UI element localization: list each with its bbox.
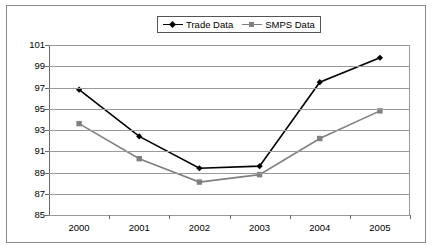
- y-axis-tick-label: 87: [17, 188, 45, 199]
- x-axis-tick-mark: [350, 215, 351, 219]
- gridline: [49, 109, 410, 110]
- data-point-square: [76, 121, 81, 126]
- legend-swatch-smps-data: [242, 20, 262, 29]
- legend-label-trade-data: Trade Data: [186, 19, 233, 30]
- chart-legend: Trade Data SMPS Data: [157, 16, 321, 33]
- gridline: [49, 45, 410, 46]
- series-line-smps-data: [79, 111, 380, 182]
- square-marker-icon: [249, 22, 254, 27]
- y-axis-tick-label: 93: [17, 124, 45, 135]
- legend-item-smps-data: SMPS Data: [242, 19, 315, 30]
- gridline: [49, 194, 410, 195]
- chart-canvas: Trade Data SMPS Data 1019997959391898785…: [7, 6, 425, 242]
- x-axis-tick-label: 2003: [249, 222, 270, 233]
- y-axis-tick-label: 91: [17, 145, 45, 156]
- y-axis-tick-label: 101: [17, 39, 45, 50]
- data-point-square: [197, 179, 202, 184]
- y-axis-tick-label: 99: [17, 60, 45, 71]
- gridline: [49, 151, 410, 152]
- x-axis-tick-mark: [230, 215, 231, 219]
- chart-frame: Trade Data SMPS Data 1019997959391898785…: [6, 5, 426, 243]
- x-axis-tick-mark: [169, 215, 170, 219]
- legend-swatch-trade-data: [163, 20, 183, 29]
- x-axis-tick-mark: [290, 215, 291, 219]
- gridline: [49, 173, 410, 174]
- data-point-square: [137, 156, 142, 161]
- y-axis-tick-label: 89: [17, 167, 45, 178]
- gridline: [49, 130, 410, 131]
- x-axis-tick-mark: [109, 215, 110, 219]
- x-axis-tick-label: 2002: [189, 222, 210, 233]
- x-axis-tick-label: 2001: [129, 222, 150, 233]
- legend-label-smps-data: SMPS Data: [265, 19, 315, 30]
- y-axis-tick-label: 97: [17, 82, 45, 93]
- x-axis-labels: 200020012002200320042005: [49, 220, 410, 236]
- gridline: [49, 88, 410, 89]
- x-axis-tick-label: 2004: [309, 222, 330, 233]
- data-point-square: [317, 136, 322, 141]
- y-axis-tick-label: 95: [17, 103, 45, 114]
- x-axis-tick-label: 2000: [69, 222, 90, 233]
- legend-item-trade-data: Trade Data: [163, 19, 233, 30]
- x-axis-tick-label: 2005: [369, 222, 390, 233]
- y-axis-labels: 1019997959391898785: [15, 45, 45, 215]
- y-axis-tick-label: 85: [17, 209, 45, 220]
- x-axis-tick-mark: [410, 215, 411, 219]
- gridline: [49, 66, 410, 67]
- diamond-marker-icon: [169, 20, 176, 27]
- data-point-diamond: [196, 165, 202, 171]
- data-point-diamond: [377, 55, 383, 61]
- plot-area: [49, 45, 410, 215]
